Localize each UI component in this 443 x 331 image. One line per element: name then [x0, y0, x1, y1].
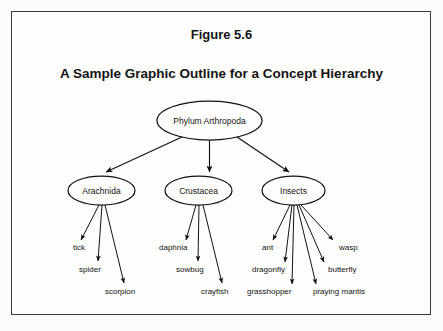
root-label: Phylum Arthropoda [173, 116, 246, 126]
edge-arachnida-to-spider [98, 205, 102, 261]
leaf-label-ant: ant [262, 243, 274, 252]
edge-insects-to-praying-mantis [297, 205, 316, 284]
edge-crustacea-to-crayfish [203, 205, 222, 283]
leaf-label-grasshopper: grasshopper [247, 287, 292, 296]
leaf-label-sowbug: sowbug [176, 265, 204, 274]
node-crustacea: Crustacea [165, 176, 232, 205]
leaf-label-tick: tick [73, 243, 86, 252]
figure-page: Figure 5.6 A Sample Graphic Outline for … [0, 0, 443, 331]
node-arachnida: Arachnida [68, 176, 135, 205]
edge-arachnida-to-tick [81, 205, 99, 240]
figure-title: Figure 5.6 [191, 27, 252, 42]
edge-insects-to-wasp [301, 205, 333, 240]
edge-arachnida-to-scorpion [105, 205, 124, 283]
leaf-label-scorpion: scorpion [105, 287, 135, 296]
figure-subtitle: A Sample Graphic Outline for a Concept H… [60, 66, 383, 81]
edge-insects-to-grasshopper [292, 205, 294, 284]
leaf-label-daphnia: daphnia [159, 243, 188, 252]
leaf-label-spider: spider [79, 265, 101, 274]
edge-crustacea-to-sowbug [198, 205, 199, 261]
arachnida-label: Arachnida [82, 186, 121, 196]
leaf-label-dragonfly: dragonfly [252, 265, 285, 274]
crustacea-label: Crustacea [179, 186, 218, 196]
leaf-label-crayfish: crayfish [201, 287, 229, 296]
edge-root-to-arachnida [106, 137, 182, 172]
edge-root-to-insects [237, 137, 289, 172]
leaf-label-wasp: wasp [338, 243, 358, 252]
insects-label: Insects [280, 186, 307, 196]
edge-crustacea-to-daphnia [186, 205, 196, 240]
edge-insects-to-butterfly [299, 205, 324, 262]
node-insects: Insects [262, 176, 325, 205]
leaf-label-praying-mantis: praying mantis [313, 287, 365, 296]
leaf-label-butterfly: butterfly [328, 265, 356, 274]
concept-hierarchy-diagram: Figure 5.6 A Sample Graphic Outline for … [0, 0, 443, 331]
edge-insects-to-ant [273, 205, 290, 240]
node-root: Phylum Arthropoda [157, 101, 262, 140]
